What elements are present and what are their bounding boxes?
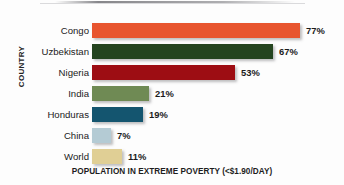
bar-row: China7% xyxy=(0,125,344,146)
bar-nigeria[interactable] xyxy=(92,65,235,80)
bar-value-label-nigeria: 53% xyxy=(241,67,260,78)
bar-row: Honduras19% xyxy=(0,104,344,125)
category-label-uzbekistan: Uzbekistan xyxy=(26,46,89,57)
bar-chart-figure: COUNTRY Congo77%Uzbekistan67%Nigeria53%I… xyxy=(0,0,344,185)
category-label-honduras: Honduras xyxy=(26,109,89,120)
bar-value-label-china: 7% xyxy=(117,130,131,141)
bar-value-label-world: 11% xyxy=(128,151,146,162)
category-label-congo: Congo xyxy=(26,25,89,36)
bar-group: 19% xyxy=(92,104,168,125)
x-axis-title: POPULATION IN EXTREME POVERTY (<$1.90/DA… xyxy=(0,167,344,176)
bar-value-label-uzbekistan: 67% xyxy=(279,46,298,57)
category-label-world: World xyxy=(26,151,89,162)
bar-group: 67% xyxy=(92,41,298,62)
bar-value-label-congo: 77% xyxy=(306,25,325,36)
bar-group: 53% xyxy=(92,62,260,83)
bar-row: World11% xyxy=(0,146,344,167)
bar-world[interactable] xyxy=(92,149,122,164)
bar-group: 21% xyxy=(92,83,174,104)
scan-artifact-line-secondary xyxy=(40,3,305,4)
category-label-china: China xyxy=(26,130,89,141)
bar-row: Congo77% xyxy=(0,20,344,41)
bar-value-label-honduras: 19% xyxy=(149,109,168,120)
bar-row: Uzbekistan67% xyxy=(0,41,344,62)
category-label-nigeria: Nigeria xyxy=(26,67,89,78)
bar-congo[interactable] xyxy=(92,23,300,38)
bar-india[interactable] xyxy=(92,86,149,101)
bar-row: Nigeria53% xyxy=(0,62,344,83)
bar-group: 77% xyxy=(92,20,325,41)
bar-honduras[interactable] xyxy=(92,107,143,122)
category-label-india: India xyxy=(26,88,89,99)
bar-value-label-india: 21% xyxy=(155,88,174,99)
bar-row: India21% xyxy=(0,83,344,104)
bar-group: 7% xyxy=(92,125,131,146)
bar-group: 11% xyxy=(92,146,146,167)
plot-area: Congo77%Uzbekistan67%Nigeria53%India21%H… xyxy=(0,18,344,166)
bar-china[interactable] xyxy=(92,128,111,143)
bar-uzbekistan[interactable] xyxy=(92,44,273,59)
